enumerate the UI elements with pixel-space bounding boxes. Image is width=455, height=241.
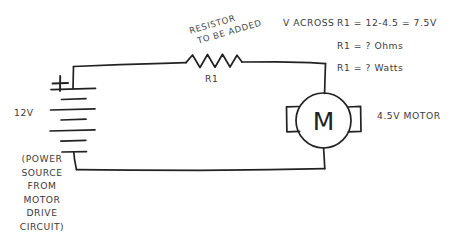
battery-positive-terminal-stub (73, 67, 74, 89)
battery-plate-short-1 (62, 99, 87, 100)
wire-right-vertical-upper (325, 64, 326, 94)
v-across-label: V ACROSS (283, 17, 334, 30)
calculation-voltage-line: R1 = 12-4.5 = 7.5V (337, 17, 437, 30)
resistor-designator-label: R1 (205, 73, 218, 86)
wire-right-vertical-lower (324, 148, 325, 169)
wire-bottom-segment (77, 169, 325, 171)
power-source-note: (POWER SOURCE FROM MOTOR DRIVE CIRCUIT) (8, 152, 76, 234)
motor-symbol-letter: M (313, 107, 335, 136)
resistor-zigzag-icon (186, 54, 242, 67)
motor-rating-label: 4.5V MOTOR (377, 110, 441, 123)
battery-plate-long-2 (51, 109, 96, 110)
circuit-diagram-canvas: M RESISTOR TO BE ADDED V ACROSS R1 = 12-… (0, 0, 455, 241)
calculation-ohms-line: R1 = ? Ohms (337, 40, 403, 53)
calculation-watts-line: R1 = ? Watts (337, 62, 403, 75)
battery-plate-long-3 (50, 130, 95, 131)
battery-voltage-label: 12V (14, 107, 34, 120)
battery-plate-short-3 (61, 140, 86, 141)
wire-top-right-segment (242, 62, 326, 64)
wire-top-left-segment (74, 63, 187, 67)
battery-plate-long-1 (51, 88, 96, 89)
battery-plate-short-2 (61, 119, 86, 120)
